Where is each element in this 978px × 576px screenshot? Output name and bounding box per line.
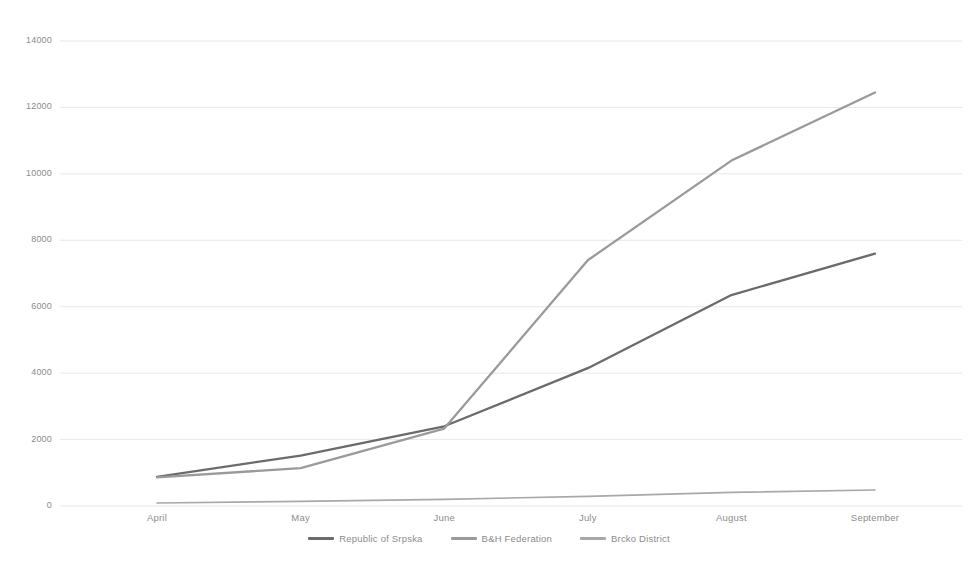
y-axis-tick-label: 6000 [0, 301, 52, 311]
series-lines [157, 92, 875, 503]
series-line [157, 254, 875, 477]
legend-item[interactable]: B&H Federation [451, 533, 552, 544]
x-axis-tick-label: September [820, 512, 930, 523]
legend-item-label: Republic of Srpska [339, 533, 422, 544]
chart-plot-area [0, 0, 978, 576]
legend-swatch-icon [308, 537, 334, 539]
line-chart: 14000120001000080006000400020000 AprilMa… [0, 0, 978, 576]
y-axis-tick-label: 14000 [0, 35, 52, 45]
x-axis-tick-label: May [246, 512, 356, 523]
y-axis-tick-label: 12000 [0, 101, 52, 111]
legend-item[interactable]: Brcko District [580, 533, 670, 544]
legend-swatch-icon [580, 537, 606, 539]
x-axis-tick-label: July [533, 512, 643, 523]
y-axis-tick-label: 0 [0, 500, 52, 510]
legend-item-label: B&H Federation [482, 533, 552, 544]
legend-item[interactable]: Republic of Srpska [308, 533, 422, 544]
legend-item-label: Brcko District [611, 533, 670, 544]
x-axis-tick-label: April [102, 512, 212, 523]
x-axis-tick-label: August [676, 512, 786, 523]
chart-legend: Republic of SrpskaB&H FederationBrcko Di… [0, 533, 978, 544]
legend-swatch-icon [451, 537, 477, 539]
gridlines [60, 41, 962, 506]
y-axis-tick-label: 4000 [0, 367, 52, 377]
y-axis-tick-label: 2000 [0, 434, 52, 444]
x-axis-tick-label: June [389, 512, 499, 523]
y-axis-tick-label: 10000 [0, 168, 52, 178]
series-line [157, 490, 875, 503]
y-axis-tick-label: 8000 [0, 234, 52, 244]
